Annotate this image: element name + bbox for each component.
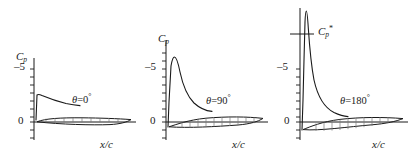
- panel-2-ytick-label-minus5: –5: [277, 61, 288, 72]
- panel-0-plot: [0, 0, 140, 164]
- panel-2-cp-star-label: Cp*: [318, 25, 333, 39]
- panel-2-ytick-label-zero: 0: [284, 115, 290, 126]
- panel-0-ytick-label-zero: 0: [18, 115, 24, 126]
- chart-panel-theta-180: –5 0 Cp* θ=180° x/c: [262, 0, 413, 164]
- panel-0-ytick-label-minus5: –5: [14, 61, 25, 72]
- pressure-coefficient-figure: Cp –5 0 θ=0° x/c: [0, 0, 413, 164]
- panel-1-ytick-label-minus5: –5: [145, 61, 156, 72]
- panel-1-y-axis-label: Cp: [158, 33, 169, 46]
- panel-0-y-ticks: [30, 69, 34, 138]
- panel-1-upper-surface-cp-curve: [168, 57, 212, 127]
- panel-1-ytick-label-zero: 0: [150, 115, 156, 126]
- panel-2-plot: [262, 0, 413, 164]
- panel-0-airfoil-section: [37, 118, 131, 125]
- panel-1-condition-label: θ=90°: [206, 94, 231, 107]
- panel-0-x-axis-label: x/c: [100, 139, 113, 150]
- panel-1-y-ticks: [162, 53, 166, 138]
- panel-0-condition-label: θ=0°: [72, 93, 92, 106]
- panel-1-plot: [132, 0, 272, 164]
- chart-panel-theta-90: Cp –5 0 θ=90° x/c: [132, 0, 272, 164]
- panel-2-x-axis-label: x/c: [372, 139, 385, 150]
- panel-2-condition-label: θ=180°: [340, 94, 370, 107]
- panel-1-x-axis-label: x/c: [232, 139, 245, 150]
- chart-panel-theta-0: Cp –5 0 θ=0° x/c: [0, 0, 140, 164]
- panel-2-y-ticks: [296, 69, 300, 138]
